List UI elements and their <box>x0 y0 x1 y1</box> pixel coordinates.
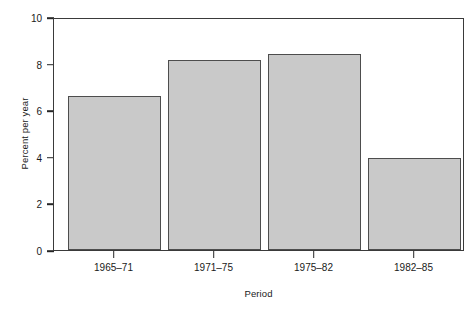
x-tick-mark <box>413 251 415 258</box>
bar-chart: Percent per year 10 8 6 4 2 0 1965–71 <box>0 0 474 314</box>
x-axis-tick-labels: 1965–71 1971–75 1975–82 1982–85 <box>0 262 474 278</box>
x-tick-mark <box>113 251 115 258</box>
x-axis-title: Period <box>53 288 464 299</box>
x-tick-label: 1965–71 <box>59 262 169 273</box>
x-tick-label: 1971–75 <box>159 262 269 273</box>
x-tick-mark <box>213 251 215 258</box>
x-tick-label: 1982–85 <box>359 262 469 273</box>
x-tick-label: 1975–82 <box>259 262 369 273</box>
x-tick-mark <box>313 251 315 258</box>
